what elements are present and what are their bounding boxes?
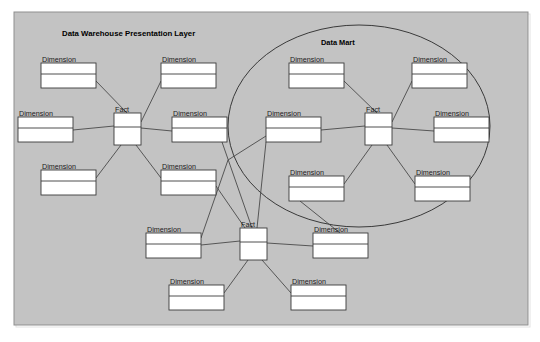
entity-label: Dimension: [147, 225, 181, 234]
entity-rect[interactable]: [114, 113, 141, 145]
entity-label: Dimension: [42, 162, 76, 171]
entity-rect[interactable]: [161, 170, 216, 195]
entity-rect[interactable]: [266, 117, 321, 142]
entity-label: Dimension: [173, 109, 207, 118]
entity-rect[interactable]: [415, 176, 470, 201]
entity-label: Dimension: [170, 277, 204, 286]
data-warehouse-panel: [14, 12, 528, 325]
data-mart-label: Data Mart: [321, 38, 355, 47]
entity-label: Dimension: [162, 55, 196, 64]
entity-rect[interactable]: [41, 63, 96, 88]
entity-rect[interactable]: [161, 63, 216, 88]
entity-label: Dimension: [413, 55, 447, 64]
entity-rect[interactable]: [172, 117, 227, 142]
entity-label: Dimension: [162, 162, 196, 171]
entity-label: Dimension: [314, 225, 348, 234]
entity-rect[interactable]: [18, 117, 73, 142]
entity-label: Dimension: [416, 168, 450, 177]
entity-label: Dimension: [290, 55, 324, 64]
entity-rect[interactable]: [291, 285, 346, 310]
entity-label: Dimension: [292, 277, 326, 286]
entity-label: Fact: [115, 105, 129, 114]
entity-label: Fact: [241, 220, 255, 229]
entity-rect[interactable]: [146, 233, 201, 258]
entity-label: Dimension: [19, 109, 53, 118]
entity-rect[interactable]: [169, 285, 224, 310]
entity-rect[interactable]: [365, 113, 392, 145]
entity-rect[interactable]: [289, 63, 344, 88]
entity-rect[interactable]: [240, 228, 267, 260]
entity-label: Dimension: [290, 168, 324, 177]
entity-rect[interactable]: [412, 63, 467, 88]
entity-rect[interactable]: [289, 176, 344, 201]
entity-rect[interactable]: [41, 170, 96, 195]
diagram-canvas: DimensionDimensionDimensionDimensionDime…: [0, 0, 540, 342]
entity-rect[interactable]: [434, 117, 489, 142]
entity-label: Dimension: [42, 55, 76, 64]
entity-label: Dimension: [267, 109, 301, 118]
entity-label: Fact: [366, 105, 380, 114]
star-schema-diagram: DimensionDimensionDimensionDimensionDime…: [0, 0, 540, 342]
entity-label: Dimension: [435, 109, 469, 118]
entity-rect[interactable]: [313, 233, 368, 258]
page-title: Data Warehouse Presentation Layer: [62, 29, 195, 38]
